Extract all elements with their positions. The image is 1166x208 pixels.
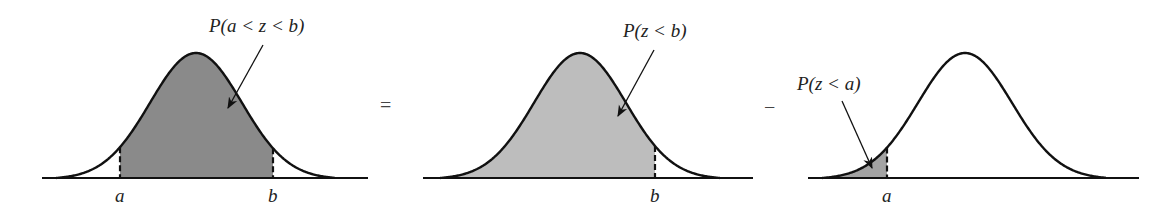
shaded-area <box>822 148 887 178</box>
cutoff-label-b: b <box>268 185 278 206</box>
arrow-icon <box>618 50 654 116</box>
probability-label: P(z < a) <box>796 73 860 95</box>
normal-curve <box>822 53 1106 178</box>
shaded-area <box>440 53 655 178</box>
equals-sign: = <box>380 94 391 116</box>
cutoff-label-b: b <box>650 185 660 206</box>
normal-distribution-diagram: abP(a < z < b)bP(z < b)aP(z < a)=− <box>0 0 1166 208</box>
diagram-canvas: abP(a < z < b)bP(z < b)aP(z < a)=− <box>0 0 1166 208</box>
probability-label: P(a < z < b) <box>208 15 304 37</box>
minus-sign: − <box>764 96 775 118</box>
arrow-icon <box>842 101 872 168</box>
cutoff-label-a: a <box>882 185 892 206</box>
probability-label: P(z < b) <box>622 20 686 42</box>
cutoff-label-a: a <box>115 185 125 206</box>
arrow-icon <box>228 45 263 108</box>
